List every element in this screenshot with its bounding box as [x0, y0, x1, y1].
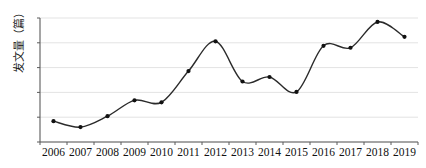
x-tick-2006: 2006	[42, 147, 65, 159]
data-line-series-1	[54, 22, 405, 127]
data-point-2015	[294, 90, 298, 94]
data-point-2012	[213, 39, 217, 43]
data-point-2007	[78, 125, 82, 129]
x-tick-2015: 2015	[285, 147, 308, 159]
x-tick-2012: 2012	[204, 147, 227, 159]
data-point-2009	[132, 98, 136, 102]
data-point-2019	[402, 35, 406, 39]
data-point-2008	[105, 114, 109, 118]
data-point-2017	[348, 46, 352, 50]
x-tick-2009: 2009	[123, 147, 146, 159]
x-tick-2014: 2014	[258, 147, 281, 159]
x-tick-2018: 2018	[366, 147, 389, 159]
line-chart: 发文量（篇） 0510152025 2006200720082009201020…	[0, 0, 426, 168]
x-tick-2011: 2011	[177, 147, 200, 159]
data-point-2011	[186, 69, 190, 73]
data-point-2010	[159, 100, 163, 104]
data-point-2006	[51, 119, 55, 123]
plot-area	[0, 0, 426, 168]
x-tick-2007: 2007	[69, 147, 92, 159]
data-point-markers	[51, 20, 406, 129]
data-point-2013	[240, 79, 244, 83]
data-point-2014	[267, 75, 271, 79]
data-point-2018	[375, 20, 379, 24]
x-tick-2013: 2013	[231, 147, 254, 159]
x-tick-2008: 2008	[96, 147, 119, 159]
data-point-2016	[321, 44, 325, 48]
x-tick-2019: 2019	[393, 147, 416, 159]
x-tick-2017: 2017	[339, 147, 362, 159]
x-tick-2010: 2010	[150, 147, 173, 159]
x-tick-2016: 2016	[312, 147, 335, 159]
